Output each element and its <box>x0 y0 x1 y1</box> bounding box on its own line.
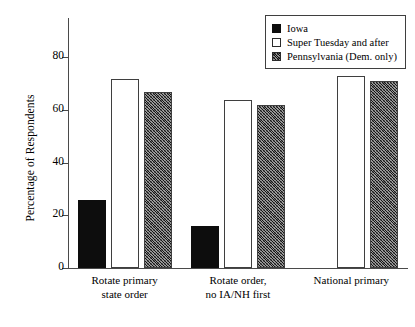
y-axis-tick-label: 0 <box>58 260 64 272</box>
bar-super-tuesday-group-2 <box>224 100 252 268</box>
bar-pennsylvania-group-2 <box>257 105 285 268</box>
legend-label-iowa: Iowa <box>287 23 308 34</box>
legend-swatch-icon-super-tuesday <box>272 38 281 47</box>
y-axis-tick-label: 80 <box>53 49 65 61</box>
legend-item-iowa: Iowa <box>272 21 397 35</box>
bar-chart: Percentage of Respondents 020406080 Rota… <box>0 0 415 327</box>
bar-super-tuesday-group-3 <box>337 76 365 268</box>
y-axis-line <box>68 18 69 268</box>
legend-item-super-tuesday: Super Tuesday and after <box>272 35 397 49</box>
x-axis-label-group-3: National primary <box>295 274 408 288</box>
x-axis-label-group-1: Rotate primary state order <box>68 274 181 301</box>
legend-item-pennsylvania: Pennsylvania (Dem. only) <box>272 49 397 63</box>
y-axis-tick-label: 20 <box>53 207 65 219</box>
bar-pennsylvania-group-1 <box>144 92 172 268</box>
legend-label-pennsylvania: Pennsylvania (Dem. only) <box>287 51 397 62</box>
x-axis-label-group-2: Rotate order, no IA/NH first <box>181 274 294 301</box>
bar-iowa-group-1 <box>78 200 106 268</box>
bar-iowa-group-2 <box>191 226 219 268</box>
y-axis-title: Percentage of Respondents <box>24 58 36 258</box>
bar-super-tuesday-group-1 <box>111 79 139 268</box>
legend-label-super-tuesday: Super Tuesday and after <box>287 37 389 48</box>
bar-pennsylvania-group-3 <box>370 81 398 268</box>
legend: Iowa Super Tuesday and after Pennsylvani… <box>265 15 406 69</box>
y-axis-tick-label: 60 <box>53 102 65 114</box>
y-axis-tick-label: 40 <box>53 155 65 167</box>
x-axis-line <box>68 268 408 269</box>
legend-swatch-icon-iowa <box>272 24 281 33</box>
legend-swatch-icon-pennsylvania <box>272 52 281 61</box>
